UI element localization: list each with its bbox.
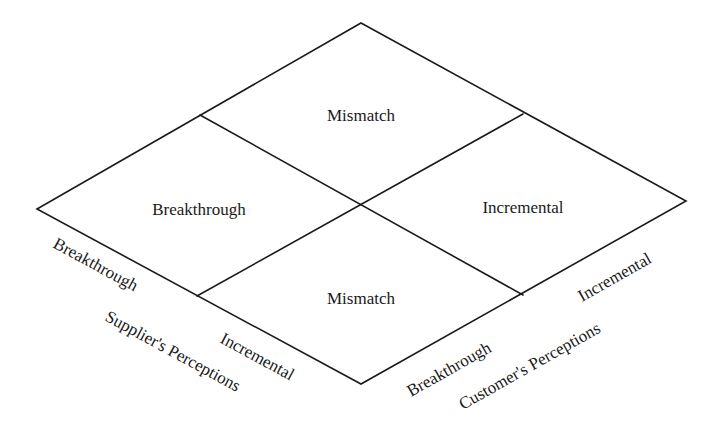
perception-matrix-diagram: Mismatch Breakthrough Incremental Mismat… <box>0 0 722 431</box>
customer-axis-title: Customer's Perceptions <box>456 318 604 413</box>
quadrant-right-label: Incremental <box>482 198 563 217</box>
quadrant-bottom-label: Mismatch <box>327 289 395 308</box>
supplier-axis-title: Supplier's Perceptions <box>102 307 244 396</box>
customer-axis: Breakthrough Incremental Customer's Perc… <box>404 249 655 414</box>
supplier-tick-breakthrough: Breakthrough <box>50 234 142 296</box>
quadrant-left-label: Breakthrough <box>152 200 246 219</box>
quadrant-top-label: Mismatch <box>327 106 395 125</box>
supplier-axis: Breakthrough Incremental Supplier's Perc… <box>50 234 298 396</box>
